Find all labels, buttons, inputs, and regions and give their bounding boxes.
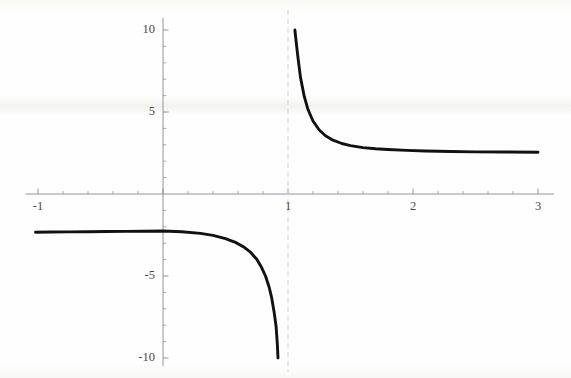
y-tick-label: -10 [138, 351, 155, 364]
x-tick-label: 1 [268, 200, 308, 213]
plot-figure: 105-5-10-1123 [0, 0, 571, 378]
x-tick-label: 2 [393, 200, 433, 213]
y-tick-label: 10 [143, 23, 156, 36]
y-tick-label: 5 [149, 105, 155, 118]
axis-group [26, 18, 555, 366]
x-tick-label: -1 [18, 200, 58, 213]
y-tick-label: -5 [145, 269, 155, 282]
x-tick-label: 3 [518, 200, 558, 213]
plot-canvas [0, 0, 571, 378]
